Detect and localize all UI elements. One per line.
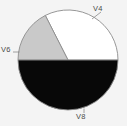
leader-line-v4 [92,12,101,19]
pie-chart-figure: V4 V6 V8 [0,0,127,126]
pie-chart-canvas [0,0,127,126]
pie-slice-v8[interactable] [18,60,118,110]
pie-label-v4: V4 [93,5,103,13]
pie-label-v8: V8 [76,113,86,121]
pie-label-v6: V6 [1,46,11,54]
